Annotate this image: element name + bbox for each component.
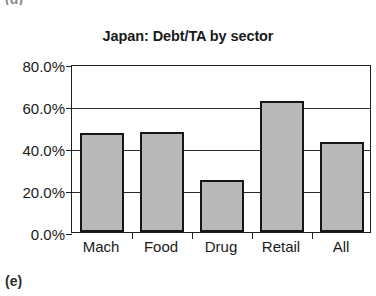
bar — [320, 142, 364, 232]
x-axis-tick-label: Food — [144, 238, 178, 255]
bar — [260, 101, 304, 232]
bar — [80, 133, 124, 232]
x-axis-tick-label: Mach — [83, 238, 120, 255]
bar — [140, 132, 184, 232]
gridline — [72, 108, 370, 109]
x-axis-tick-label: Retail — [262, 238, 300, 255]
y-axis-tick-label: 20.0% — [0, 184, 65, 201]
y-axis-tick-label: 80.0% — [0, 58, 65, 75]
bar — [200, 180, 244, 232]
x-axis-tick-label: All — [333, 238, 350, 255]
y-axis-tick-mark — [66, 66, 72, 67]
y-axis-tick-label: 40.0% — [0, 142, 65, 159]
panel-letter-bottom: (e) — [5, 273, 22, 289]
y-axis-tick-mark — [66, 234, 72, 235]
plot-area: 0.0%20.0%40.0%60.0%80.0% — [71, 65, 371, 233]
x-axis-tick-label: Drug — [205, 238, 238, 255]
chart-title: Japan: Debt/TA by sector — [0, 28, 376, 44]
y-axis-tick-mark — [66, 108, 72, 109]
y-axis-tick-mark — [66, 192, 72, 193]
x-axis-tick-mark — [132, 232, 133, 239]
x-axis-tick-mark — [312, 232, 313, 239]
y-axis-tick-label: 60.0% — [0, 100, 65, 117]
bar-chart: Japan: Debt/TA by sector 0.0%20.0%40.0%6… — [0, 0, 376, 270]
y-axis-tick-mark — [66, 150, 72, 151]
x-axis-tick-mark — [192, 232, 193, 239]
x-axis-tick-mark — [252, 232, 253, 239]
y-axis-tick-label: 0.0% — [0, 226, 65, 243]
